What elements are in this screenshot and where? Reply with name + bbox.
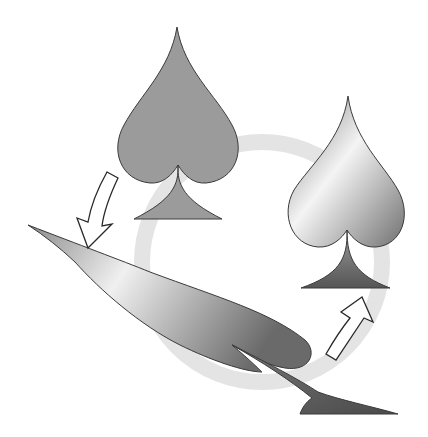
flat-spade (118, 27, 238, 219)
stretched-spade (28, 225, 398, 414)
diagram-canvas: Cycle of three spade shapes connected by… (0, 0, 428, 437)
diagram-svg (0, 0, 428, 437)
arrow-flat-to-stretched (77, 172, 118, 248)
